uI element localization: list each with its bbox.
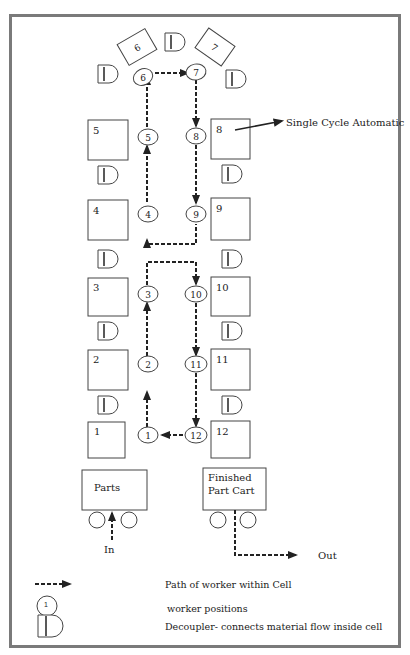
machine-label: 8 xyxy=(216,124,222,135)
worker-position-11: 11 xyxy=(185,356,207,372)
machine-label: 10 xyxy=(216,282,229,293)
parts-cart-label: Parts xyxy=(94,482,120,493)
legend-worker-number: 1 xyxy=(44,601,48,608)
out-label: Out xyxy=(318,550,337,561)
machine-label: 3 xyxy=(93,282,99,293)
legend-decoupler-label: Decoupler- connects material flow inside… xyxy=(165,621,382,632)
finished-cart-label-1: Finished xyxy=(208,472,252,483)
legend-worker-icon: 1 xyxy=(37,596,57,616)
worker-number: 12 xyxy=(190,431,201,441)
finished-cart-label-2: Part Cart xyxy=(208,485,255,496)
wheel-icon xyxy=(89,512,105,528)
decoupler-icon xyxy=(222,396,242,414)
worker-number: 3 xyxy=(145,290,151,300)
machine-12: 12 xyxy=(211,421,250,458)
decoupler-icon xyxy=(222,322,242,340)
decoupler-icon xyxy=(98,166,118,184)
machine-8: 8 xyxy=(211,119,250,159)
path-segment xyxy=(147,224,196,244)
decoupler-icon xyxy=(222,165,242,183)
worker-number: 11 xyxy=(190,360,201,370)
worker-path xyxy=(147,73,196,435)
worker-position-7: 7 xyxy=(185,62,207,81)
decoupler-icon xyxy=(98,322,118,340)
annotation-label: Single Cycle Automatic xyxy=(286,117,405,128)
worker-position-12: 12 xyxy=(185,427,207,443)
worker-position-8: 8 xyxy=(186,128,206,144)
machine-9: 9 xyxy=(211,198,250,240)
decoupler-icon xyxy=(226,70,246,88)
machine-label: 9 xyxy=(216,203,222,214)
machine-10: 10 xyxy=(211,277,250,316)
decoupler-icon xyxy=(98,250,118,268)
legend-worker-label: worker positions xyxy=(167,603,248,614)
worker-position-1: 1 xyxy=(138,427,158,443)
wheel-icon xyxy=(240,512,256,528)
machine-label: 2 xyxy=(93,354,99,365)
single-cycle-annotation: Single Cycle Automatic xyxy=(235,117,405,130)
in-label: In xyxy=(104,544,115,555)
worker-position-4: 4 xyxy=(138,206,158,222)
decoupler-icon xyxy=(222,250,242,268)
worker-number: 1 xyxy=(145,431,151,441)
machine-6: 6 xyxy=(117,29,157,66)
worker-number: 5 xyxy=(145,133,151,143)
cell-layout-diagram: 5 4 3 2 1 8 9 10 11 12 6 7 xyxy=(0,0,410,655)
machine-2: 2 xyxy=(88,350,128,390)
machine-7: 7 xyxy=(195,28,235,66)
worker-number: 6 xyxy=(140,73,146,83)
machine-label: 4 xyxy=(93,205,99,216)
worker-number: 4 xyxy=(145,210,151,220)
legend-decoupler-icon xyxy=(38,615,63,637)
worker-position-6: 6 xyxy=(131,66,156,89)
wheel-icon xyxy=(121,512,137,528)
machine-4: 4 xyxy=(88,200,128,240)
worker-position-5: 5 xyxy=(138,129,158,145)
decoupler-icon xyxy=(98,65,118,83)
machine-1: 1 xyxy=(88,422,125,458)
worker-number: 9 xyxy=(193,210,199,220)
machine-label: 5 xyxy=(93,125,99,136)
worker-number: 10 xyxy=(190,290,202,300)
wheel-icon xyxy=(210,512,226,528)
finished-part-cart: Finished Part Cart Out xyxy=(203,468,337,561)
worker-position-10: 10 xyxy=(185,286,207,302)
worker-position-9: 9 xyxy=(186,206,206,222)
worker-number: 2 xyxy=(145,360,151,370)
machine-3: 3 xyxy=(88,278,128,316)
worker-position-2: 2 xyxy=(138,356,158,372)
worker-number: 7 xyxy=(193,68,199,78)
machine-label: 11 xyxy=(216,354,229,365)
legend-path-label: Path of worker within Cell xyxy=(165,579,291,590)
machine-label: 1 xyxy=(94,426,100,437)
decoupler-icon xyxy=(98,396,118,414)
machine-label: 12 xyxy=(216,426,229,437)
worker-number: 8 xyxy=(193,132,199,142)
machine-11: 11 xyxy=(211,349,250,390)
worker-position-3: 3 xyxy=(138,286,158,302)
path-segment xyxy=(147,262,196,285)
decoupler-icon xyxy=(165,33,185,51)
machine-5: 5 xyxy=(88,120,128,160)
parts-cart: Parts In xyxy=(82,470,147,555)
legend: Path of worker within Cell 1 worker posi… xyxy=(35,579,382,637)
